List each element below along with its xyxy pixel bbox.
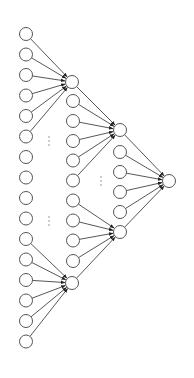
node-t1 bbox=[114, 166, 127, 179]
node-t2 bbox=[114, 186, 127, 199]
edge-in2-to-A bbox=[32, 76, 65, 81]
node-t3 bbox=[114, 206, 127, 219]
node-D bbox=[114, 226, 127, 239]
network-diagram bbox=[0, 0, 194, 378]
edge-in10-to-B bbox=[31, 243, 67, 278]
node-m5 bbox=[67, 194, 80, 207]
node-A bbox=[66, 76, 79, 89]
ellipsis-dot bbox=[48, 224, 50, 226]
ellipsis-dot bbox=[100, 176, 102, 178]
node-in12 bbox=[20, 274, 33, 287]
ellipsis-dot bbox=[48, 136, 50, 138]
edge-m4-to-C bbox=[77, 135, 115, 176]
node-m6 bbox=[67, 214, 80, 227]
edge-C-to-OUT bbox=[125, 135, 165, 176]
edge-t3-to-OUT bbox=[125, 185, 163, 209]
ellipsis-inputs-top bbox=[48, 136, 50, 146]
node-m0 bbox=[67, 95, 80, 108]
node-m3 bbox=[67, 154, 80, 167]
node-m1 bbox=[67, 115, 80, 128]
node-t0 bbox=[114, 146, 127, 159]
edge-m1-to-C bbox=[79, 122, 113, 128]
node-in11 bbox=[20, 253, 33, 266]
edge-in12-to-B bbox=[32, 280, 65, 282]
node-in9 bbox=[20, 212, 33, 225]
edge-A-to-C bbox=[77, 87, 115, 125]
node-in15 bbox=[20, 335, 33, 348]
node-in3 bbox=[20, 89, 33, 102]
edge-m6-to-D bbox=[79, 222, 113, 230]
edge-D-to-OUT bbox=[125, 186, 165, 227]
edges-layer bbox=[30, 39, 164, 337]
edge-m7-to-D bbox=[79, 233, 113, 239]
node-B bbox=[66, 277, 79, 290]
edge-m2-to-C bbox=[79, 132, 113, 140]
node-OUT bbox=[163, 175, 176, 188]
edge-in11-to-B bbox=[32, 262, 66, 279]
node-m8 bbox=[67, 255, 80, 268]
edge-in5-to-A bbox=[30, 87, 67, 131]
node-m2 bbox=[67, 135, 80, 148]
edge-in0-to-A bbox=[30, 39, 67, 77]
node-in10 bbox=[20, 233, 33, 246]
ellipsis-dot bbox=[100, 180, 102, 182]
node-in5 bbox=[20, 130, 33, 143]
edge-t2-to-OUT bbox=[126, 183, 162, 191]
node-in1 bbox=[20, 48, 33, 61]
node-m7 bbox=[67, 234, 80, 247]
ellipsis-inputs-bottom bbox=[48, 216, 50, 226]
ellipsis-dot bbox=[48, 144, 50, 146]
node-in8 bbox=[20, 192, 33, 205]
edge-B-to-D bbox=[76, 237, 115, 278]
edge-in13-to-B bbox=[32, 285, 65, 298]
edge-in4-to-A bbox=[31, 86, 66, 112]
edge-in1-to-A bbox=[32, 58, 66, 79]
edge-m3-to-C bbox=[78, 134, 114, 157]
node-in6 bbox=[20, 151, 33, 164]
node-in7 bbox=[20, 171, 33, 184]
ellipsis-dot bbox=[100, 184, 102, 186]
ellipsis-dot bbox=[48, 216, 50, 218]
node-m4 bbox=[67, 174, 80, 187]
node-in14 bbox=[20, 315, 33, 328]
node-in4 bbox=[20, 110, 33, 123]
ellipsis-dot bbox=[48, 220, 50, 222]
edge-m5-to-D bbox=[78, 204, 114, 228]
edge-in3-to-A bbox=[32, 84, 65, 94]
ellipsis-middle bbox=[100, 176, 102, 186]
node-in13 bbox=[20, 294, 33, 307]
nodes-layer bbox=[20, 28, 176, 349]
node-in0 bbox=[20, 28, 33, 41]
node-in2 bbox=[20, 69, 33, 82]
node-C bbox=[114, 124, 127, 137]
ellipsis-dot bbox=[48, 140, 50, 142]
